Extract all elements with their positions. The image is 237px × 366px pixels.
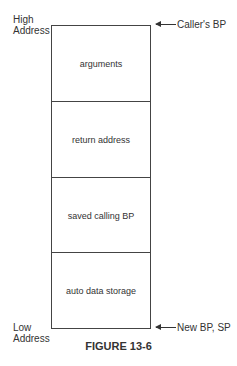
callers-bp-pointer: Caller's BP bbox=[156, 19, 226, 30]
figure-caption: FIGURE 13-6 bbox=[0, 340, 237, 352]
stack-frame: arguments return address saved calling B… bbox=[51, 25, 151, 329]
arrow-left-icon bbox=[156, 327, 176, 328]
callers-bp-label: Caller's BP bbox=[177, 19, 226, 30]
high-label-line2: Address bbox=[13, 25, 50, 36]
high-label-line1: High bbox=[13, 14, 50, 25]
cell-auto-data-storage: auto data storage bbox=[52, 253, 150, 328]
arrow-left-icon bbox=[156, 24, 176, 25]
high-address-label: High Address bbox=[13, 14, 50, 36]
new-bp-sp-pointer: New BP, SP bbox=[156, 322, 231, 333]
cell-return-address: return address bbox=[52, 102, 150, 177]
new-bp-sp-label: New BP, SP bbox=[177, 322, 231, 333]
low-label-line1: Low bbox=[13, 322, 50, 333]
cell-arguments: arguments bbox=[52, 26, 150, 101]
cell-saved-calling-bp: saved calling BP bbox=[52, 178, 150, 253]
